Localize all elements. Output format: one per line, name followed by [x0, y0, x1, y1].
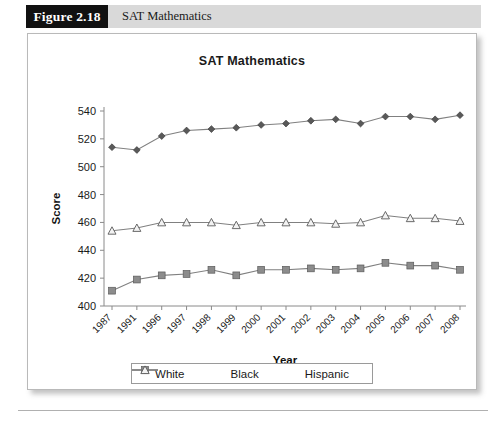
y-tick-label: 400 [78, 300, 96, 312]
line-chart-plot: 400420440460480500520540Score19871991199… [28, 34, 478, 391]
x-tick-label: 1997 [164, 311, 188, 335]
legend-label: White [155, 368, 184, 380]
figure-caption-bar: Figure 2.18 SAT Mathematics [26, 5, 481, 28]
x-tick-label: 1998 [189, 311, 213, 335]
series-marker-black [208, 266, 215, 273]
figure-panel: SAT Mathematics 400420440460480500520540… [27, 33, 477, 390]
legend-label: Black [231, 368, 259, 380]
x-tick-label: 2008 [438, 311, 462, 335]
series-marker-white [307, 117, 314, 124]
series-marker-white [407, 113, 414, 120]
y-tick-label: 520 [78, 133, 96, 145]
legend-item-hispanic[interactable]: Hispanic [305, 368, 349, 380]
x-tick-label: 2001 [264, 311, 288, 335]
open-triangle-icon [132, 364, 158, 376]
chart-legend: WhiteBlackHispanic [131, 363, 373, 384]
x-tick-label: 1991 [115, 311, 139, 335]
series-marker-white [258, 122, 265, 129]
series-marker-black [109, 287, 116, 294]
x-tick-label: 1987 [90, 311, 114, 335]
y-axis-title: Score [50, 193, 62, 225]
series-marker-black [307, 265, 314, 272]
y-tick-label: 440 [78, 244, 96, 256]
x-tick-label: 2004 [338, 311, 362, 335]
x-tick-label: 2007 [413, 311, 437, 335]
series-marker-hispanic [381, 211, 389, 218]
series-marker-black [258, 266, 265, 273]
page-divider-rule [18, 410, 488, 411]
y-tick-label: 460 [78, 216, 96, 228]
series-marker-black [457, 266, 464, 273]
series-marker-white [233, 124, 240, 131]
figure-number-tag: Figure 2.18 [26, 5, 108, 28]
series-marker-black [432, 262, 439, 269]
series-marker-black [357, 265, 364, 272]
x-tick-label: 2005 [363, 311, 387, 335]
x-tick-label: 2003 [314, 311, 338, 335]
y-tick-label: 420 [78, 272, 96, 284]
y-tick-label: 540 [78, 105, 96, 117]
series-marker-white [158, 133, 165, 140]
x-tick-label: 2002 [289, 311, 313, 335]
y-tick-label: 480 [78, 189, 96, 201]
x-tick-label: 2000 [239, 311, 263, 335]
series-marker-white [283, 120, 290, 127]
series-marker-white [382, 113, 389, 120]
x-tick-label: 1996 [140, 311, 164, 335]
legend-item-black[interactable]: Black [231, 368, 259, 380]
figure-caption-title: SAT Mathematics [108, 5, 212, 28]
series-marker-black [283, 266, 290, 273]
series-marker-black [332, 266, 339, 273]
series-marker-black [382, 259, 389, 266]
series-marker-white [183, 127, 190, 134]
x-tick-label: 1999 [214, 311, 238, 335]
series-marker-white [432, 116, 439, 123]
x-tick-label: 2006 [388, 311, 412, 335]
series-marker-white [457, 112, 464, 119]
series-marker-black [407, 262, 414, 269]
series-marker-white [332, 116, 339, 123]
legend-label: Hispanic [305, 368, 349, 380]
series-marker-white [208, 126, 215, 133]
series-marker-black [158, 272, 165, 279]
series-marker-white [357, 120, 364, 127]
legend-item-white[interactable]: White [155, 368, 184, 380]
series-marker-black [133, 276, 140, 283]
y-tick-label: 500 [78, 161, 96, 173]
series-marker-white [109, 144, 116, 151]
chart-area: SAT Mathematics 400420440460480500520540… [28, 34, 476, 389]
series-marker-black [183, 271, 190, 278]
series-marker-black [233, 272, 240, 279]
series-marker-white [133, 147, 140, 154]
